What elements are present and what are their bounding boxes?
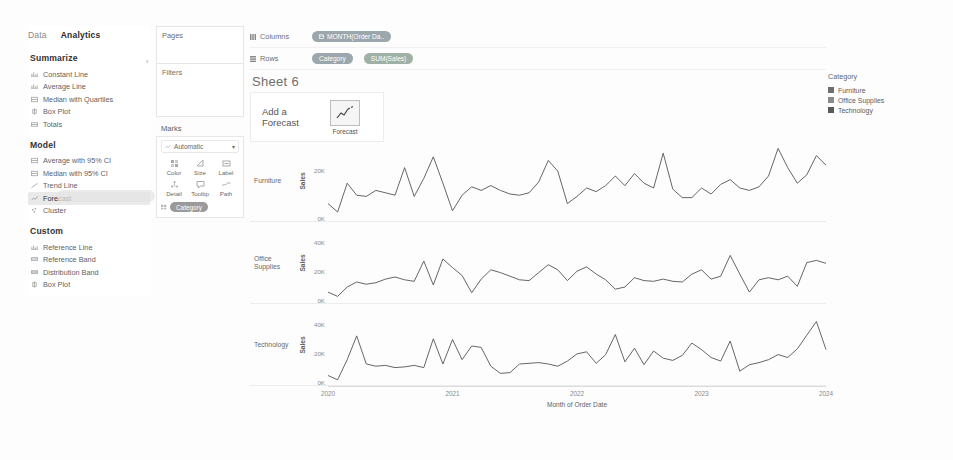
forecast-chip-label: Forecast <box>333 128 358 135</box>
trend-line-icon <box>31 182 38 189</box>
pill-label: MONTH(Order Da.. <box>327 33 384 40</box>
analytics-item-median-with-95-ci[interactable]: Median with 95% CI <box>28 167 150 180</box>
marks-card: Automatic ▾ Color Size Label <box>156 136 244 218</box>
analytics-item-label: Reference Line <box>43 243 93 252</box>
cards-column: Pages Filters Marks Automatic ▾ Color <box>156 26 244 326</box>
reference-line-icon <box>31 244 38 251</box>
analytics-item-box-plot-custom[interactable]: Box Plot <box>28 279 150 292</box>
distribution-band-icon <box>31 269 38 276</box>
marks-button-label: Color <box>167 169 182 176</box>
panel-office-supplies[interactable]: Office Supplies Sales 0K20K40K <box>250 222 826 304</box>
add-forecast-drop-target[interactable]: Add a Forecast Forecast <box>250 92 384 142</box>
analytics-item-label: Trend Line <box>43 181 78 190</box>
columns-shelf[interactable]: Columns MONTH(Order Da.. <box>250 26 826 48</box>
marks-button-label: Tooltip <box>191 190 209 197</box>
marks-button-path[interactable]: Path <box>213 178 239 198</box>
collapse-pane-icon[interactable]: ‹ <box>146 57 149 66</box>
y-tick-label: 0K <box>317 379 328 386</box>
x-tick-label: 2024 <box>819 390 833 397</box>
analytics-item-median-with-quartiles[interactable]: Median with Quartiles <box>28 93 150 106</box>
columns-label: Columns <box>260 32 289 41</box>
analytics-item-average-with-95-ci[interactable]: Average with 95% CI <box>28 155 150 168</box>
plot-technology: 0K20K40K <box>328 304 826 385</box>
marks-button-color[interactable]: Color <box>161 157 187 177</box>
analytics-item-cluster[interactable]: Cluster <box>28 205 150 218</box>
forecast-chip-box <box>330 100 360 126</box>
panel-furniture[interactable]: Furniture Sales 0K20K <box>250 140 826 222</box>
analytics-item-label: Median with 95% CI <box>43 169 108 178</box>
legend-item-label: Office Supplies <box>838 97 884 104</box>
analytics-item-label: Reference Band <box>43 255 96 264</box>
marks-buttons: Color Size Label Detail Tooltip <box>161 157 239 198</box>
marks-button-detail[interactable]: Detail <box>161 178 187 198</box>
chevron-down-icon[interactable]: ▾ <box>232 143 235 150</box>
pill-sum-sales[interactable]: SUM(Sales) <box>364 53 414 64</box>
row-header-technology: Technology <box>250 304 292 385</box>
analytics-item-constant-line[interactable]: Constant Line <box>28 68 150 81</box>
color-legend: Category Furniture Office Supplies Techn… <box>828 72 926 115</box>
marks-button-label: Size <box>194 169 206 176</box>
marks-button-label[interactable]: Label <box>213 157 239 177</box>
forecast-chip[interactable]: Forecast <box>328 100 362 135</box>
columns-icon <box>250 34 256 40</box>
analytics-item-label: Constant Line <box>43 70 88 79</box>
analytics-item-reference-band[interactable]: Reference Band <box>28 254 150 267</box>
section-title-custom: Custom <box>30 226 150 236</box>
marks-button-tooltip[interactable]: Tooltip <box>187 178 213 198</box>
analytics-item-reference-line[interactable]: Reference Line <box>28 241 150 254</box>
forecast-drag-ghost <box>57 190 155 202</box>
pages-shelf[interactable]: Pages <box>156 26 244 64</box>
rows-shelf[interactable]: Rows Category SUM(Sales) <box>250 48 826 70</box>
label-icon <box>222 159 231 168</box>
mark-type-value: Automatic <box>174 143 203 150</box>
box-plot-icon <box>31 108 38 115</box>
analytics-item-label: Average Line <box>43 82 86 91</box>
legend-item-office-supplies[interactable]: Office Supplies <box>828 95 926 105</box>
analytics-group-custom: Reference Line Reference Band Distributi… <box>28 241 150 291</box>
legend-item-furniture[interactable]: Furniture <box>828 85 926 95</box>
rows-icon <box>250 56 256 62</box>
median-ci-icon <box>31 170 38 177</box>
analytics-group-summarize: Constant Line Average Line Median with Q… <box>28 68 150 131</box>
median-quartiles-icon <box>31 96 38 103</box>
marks-pill-category[interactable]: Category <box>170 202 208 212</box>
analytics-item-label: Distribution Band <box>43 268 99 277</box>
axis-title-technology: Sales <box>299 336 306 353</box>
legend-swatch <box>828 87 834 93</box>
marks-button-size[interactable]: Size <box>187 157 213 177</box>
panel-technology[interactable]: Technology Sales 0K20K40K <box>250 304 826 386</box>
line-mark-icon <box>165 144 171 150</box>
pill-month-order-date[interactable]: MONTH(Order Da.. <box>312 31 391 42</box>
reference-band-icon <box>31 256 38 263</box>
legend-item-label: Furniture <box>838 87 866 94</box>
axis-title-furniture: Sales <box>299 172 306 189</box>
marks-pill-row: Category <box>161 202 239 212</box>
x-tick-label: 2020 <box>321 390 335 397</box>
y-tick-label: 0K <box>317 297 328 304</box>
viz-area[interactable]: Furniture Sales 0K20K Office Supplies Sa… <box>250 140 826 432</box>
analytics-item-label: Cluster <box>43 206 66 215</box>
x-tick-label: 2023 <box>694 390 708 397</box>
y-tick-label: 20K <box>314 350 328 357</box>
filters-label: Filters <box>157 64 243 77</box>
drop-target-text: Add a Forecast <box>251 106 324 128</box>
marks-button-label: Path <box>220 190 233 197</box>
x-tick-label: 2022 <box>570 390 584 397</box>
plot-furniture: 0K20K <box>328 140 826 221</box>
analytics-item-distribution-band[interactable]: Distribution Band <box>28 266 150 279</box>
x-axis-title: Month of Order Date <box>547 401 607 408</box>
legend-item-technology[interactable]: Technology <box>828 105 926 115</box>
analytics-item-box-plot[interactable]: Box Plot <box>28 106 150 119</box>
tab-data[interactable]: Data <box>28 30 47 40</box>
analytics-item-totals[interactable]: Totals <box>28 118 150 131</box>
analytics-item-average-line[interactable]: Average Line <box>28 81 150 94</box>
tab-analytics[interactable]: Analytics <box>61 30 101 40</box>
pill-category[interactable]: Category <box>312 53 353 64</box>
mark-type-dropdown[interactable]: Automatic ▾ <box>161 140 239 153</box>
drop-target-line1: Add a <box>262 106 324 117</box>
y-tick-label: 40K <box>314 239 328 246</box>
filters-shelf[interactable]: Filters <box>156 64 244 117</box>
shelf-area: Columns MONTH(Order Da.. Rows Category S… <box>250 26 826 70</box>
calendar-icon <box>319 34 324 39</box>
y-tick-label: 20K <box>314 268 328 275</box>
